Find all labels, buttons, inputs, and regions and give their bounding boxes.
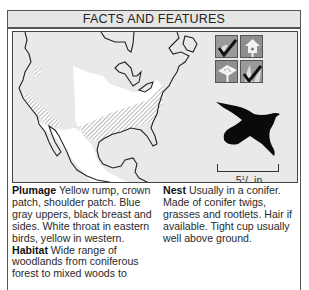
feeder-plants-checked-icon (215, 35, 238, 58)
feature-icon-grid (215, 35, 265, 85)
plumage-term: Plumage (12, 184, 56, 196)
plumage-paragraph: Plumage Yellow rump, crown patch, should… (12, 185, 158, 245)
nest-paragraph: Nest Usually in a conifer. Made of conif… (163, 185, 299, 245)
habitat-paragraph: Habitat Wide range of woodlands from con… (12, 245, 158, 281)
nest-box-icon (240, 35, 263, 58)
card-title: FACTS AND FEATURES (83, 12, 225, 26)
size-scale-bracket (217, 164, 279, 172)
year-round-range-patch (35, 66, 41, 76)
size-label: 51/2 in (229, 174, 269, 183)
shrubs-checked-icon (240, 60, 263, 83)
habitat-term: Habitat (12, 244, 48, 256)
nest-term: Nest (163, 184, 186, 196)
facts-left-column: Plumage Yellow rump, crown patch, should… (12, 185, 158, 280)
bird-silhouette-icon (214, 100, 284, 162)
year-round-range-west (25, 92, 63, 127)
bird-table-icon (215, 60, 238, 83)
card-header: FACTS AND FEATURES (7, 10, 301, 29)
range-map-panel: 51/2 in (12, 31, 298, 183)
facts-right-column: Nest Usually in a conifer. Made of conif… (163, 185, 299, 245)
